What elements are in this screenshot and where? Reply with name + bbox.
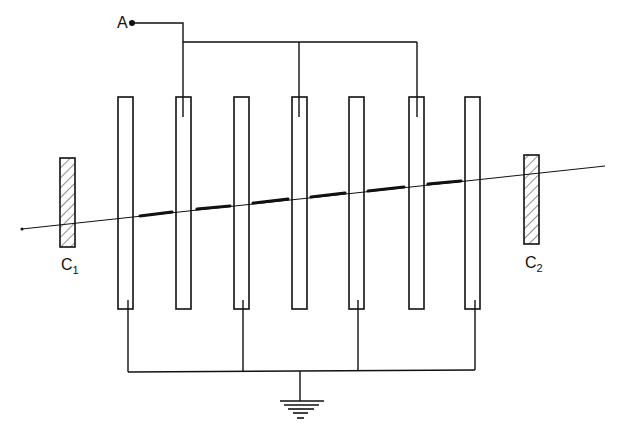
beam-start-dot [21,228,24,231]
terminal-wire [132,23,183,42]
plate-1 [118,97,133,309]
plate-6 [409,97,424,309]
plate-7 [465,97,480,309]
diagram-canvas: A [0,0,620,438]
ground-icon [280,401,324,418]
collector-c1-label: C1 [61,256,79,276]
plate-3 [234,97,249,309]
terminal-a: A [117,14,183,42]
terminal-a-label: A [117,14,128,31]
plates [118,97,480,309]
collector-c2-label: C2 [525,254,543,274]
bottom-bus [128,300,475,401]
plate-2 [176,97,191,309]
plate-4 [292,97,307,309]
plate-5 [349,97,364,309]
collector-c1: C1 [60,158,79,276]
